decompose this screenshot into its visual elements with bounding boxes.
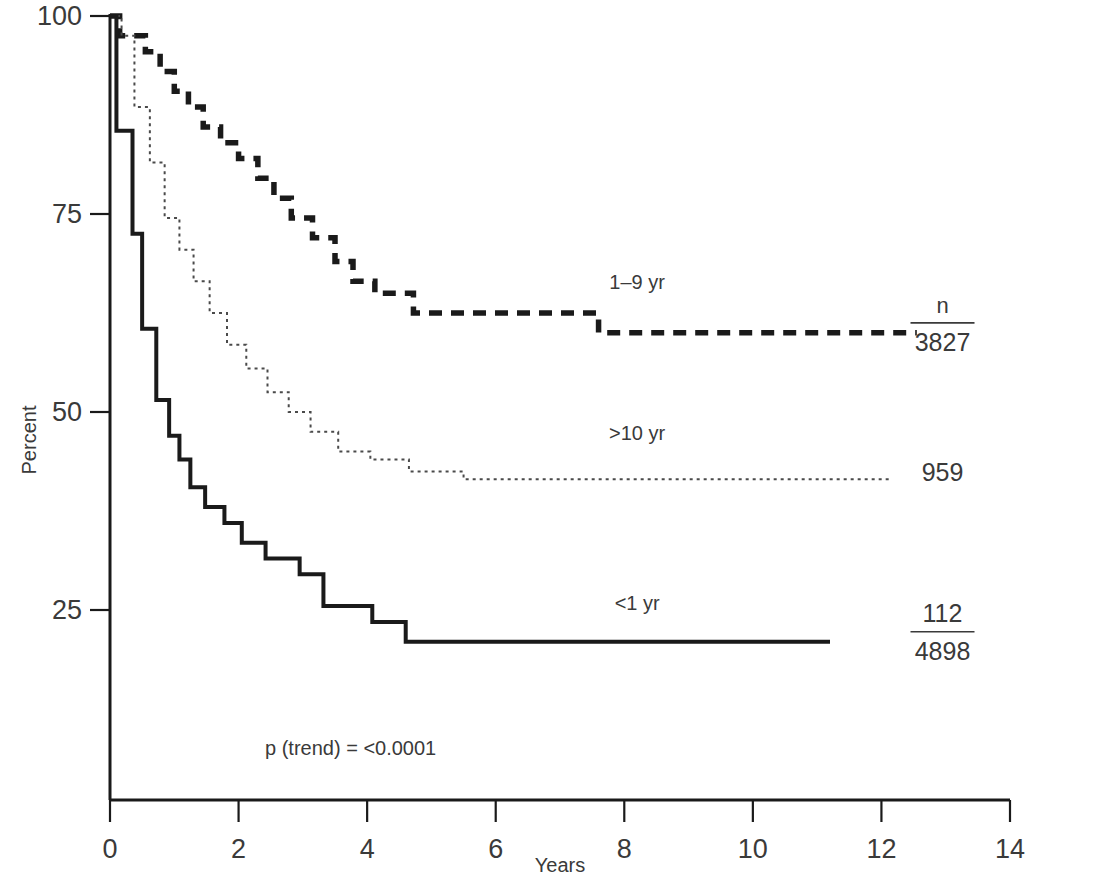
p-value-annotation: p (trend) = <0.0001 <box>265 737 436 759</box>
x-axis-title: Years <box>535 854 585 875</box>
y-tick-label-50: 50 <box>52 397 82 427</box>
series-label--10-yr: >10 yr <box>609 422 665 444</box>
x-tick-label-8: 8 <box>617 834 632 864</box>
series-inline-labels: 1–9 yr>10 yr<1 yr <box>609 271 665 614</box>
x-tick-label-0: 0 <box>102 834 117 864</box>
x-tick-label-10: 10 <box>738 834 768 864</box>
y-axis-title: Percent <box>18 405 40 474</box>
series-label--1-yr: <1 yr <box>615 592 660 614</box>
y-tick-label-100: 100 <box>37 1 82 31</box>
km-curve--10-yr <box>110 16 891 479</box>
n-numerator-1-9-yr: n <box>936 293 948 318</box>
n-denominator--10-yr: 959 <box>922 458 964 486</box>
km-curve--1-yr <box>110 16 830 642</box>
series-label-1-9-yr: 1–9 yr <box>609 271 665 293</box>
figure-root: 255075100 02468101214 Percent Years p (t… <box>0 0 1094 875</box>
n-denominator-1-9-yr: 3827 <box>915 328 971 356</box>
x-tick-label-6: 6 <box>488 834 503 864</box>
n-numerator--1-yr: 112 <box>923 599 963 627</box>
km-curve-1-9-yr <box>110 16 917 333</box>
x-tick-label-4: 4 <box>360 834 375 864</box>
y-tick-label-25: 25 <box>52 595 82 625</box>
y-tick-label-75: 75 <box>52 199 82 229</box>
n-denominator--1-yr: 4898 <box>915 637 971 665</box>
series-n-labels: n38279591124898 <box>911 293 975 665</box>
x-tick-label-14: 14 <box>995 834 1025 864</box>
y-axis-ticks: 255075100 <box>37 1 110 625</box>
km-survival-chart: 255075100 02468101214 Percent Years p (t… <box>0 0 1094 875</box>
x-tick-label-12: 12 <box>866 834 896 864</box>
km-curves-group <box>110 16 917 642</box>
x-tick-label-2: 2 <box>231 834 246 864</box>
